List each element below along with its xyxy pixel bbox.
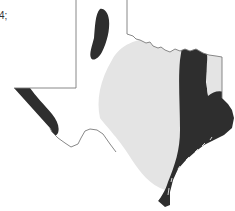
panhandle-boundary-outline	[14, 0, 76, 88]
texas-map-figure: 4;	[0, 0, 235, 211]
texas-map	[0, 0, 235, 211]
